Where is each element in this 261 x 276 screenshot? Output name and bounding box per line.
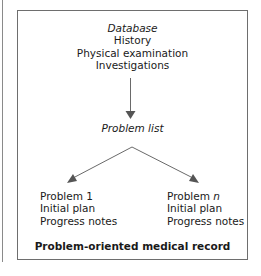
- problem-n-prefix: Problem: [167, 190, 213, 202]
- flow-arrows: [0, 0, 261, 276]
- problem-1-progress-notes: Progress notes: [40, 215, 117, 228]
- problem-1-initial-plan: Initial plan: [40, 202, 95, 215]
- problem-list-label: Problem list: [17, 122, 248, 135]
- problem-n-initial-plan: Initial plan: [167, 202, 222, 215]
- problem-n-label: Problem n: [167, 190, 220, 203]
- problem-1-index: 1: [86, 190, 93, 202]
- down-arrow-icon: [126, 78, 136, 119]
- branch-left-arrow-icon: [67, 147, 132, 183]
- problem-n-index: n: [213, 190, 220, 202]
- branch-right-arrow-icon: [132, 147, 199, 183]
- diagram-title: Problem-oriented medical record: [17, 240, 248, 253]
- problem-1-label: Problem 1: [40, 190, 93, 203]
- problem-n-progress-notes: Progress notes: [167, 215, 244, 228]
- problem-1-prefix: Problem: [40, 190, 86, 202]
